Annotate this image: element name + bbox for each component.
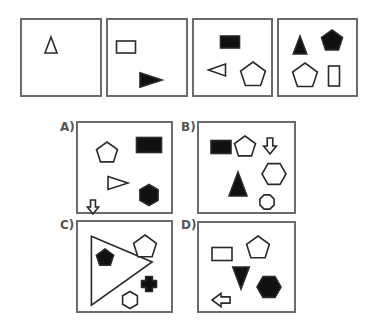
sequence-panel-3: [192, 18, 273, 97]
sequence-panel-4-shapes: [279, 20, 356, 95]
option-label: D): [181, 218, 196, 232]
triangle-right-outline-icon: [108, 177, 128, 190]
option-label: C): [60, 218, 74, 232]
rectangle-black-icon: [211, 141, 231, 154]
arrow-left-outline-icon: [212, 293, 230, 307]
puzzle-stage: A)B)C)D): [0, 0, 378, 333]
sequence-panel-3-shapes: [194, 20, 271, 95]
arrow-down-outline-icon: [264, 138, 277, 154]
option-d-panel-shapes: [199, 223, 294, 311]
triangle-left-outline-icon: [209, 64, 226, 76]
rectangle-outline-icon: [212, 248, 232, 261]
option-label: A): [60, 120, 75, 134]
pentagon-outline-icon: [97, 142, 118, 162]
pentagon-outline-icon: [241, 62, 266, 86]
option-c-panel-shapes: [78, 222, 171, 311]
option-label: B): [181, 120, 196, 134]
sequence-panel-1: [20, 18, 102, 97]
hexagon-outline-icon: [123, 292, 138, 309]
option-a-panel-shapes: [78, 123, 171, 212]
sequence-panel-1-shapes: [22, 20, 100, 95]
triangle-up-black-icon: [293, 36, 307, 54]
hexagon-wide-outline-icon: [262, 164, 286, 185]
option-d-panel[interactable]: [197, 221, 296, 313]
sequence-panel-4: [277, 18, 358, 97]
arrow-down-outline-icon: [87, 200, 98, 214]
sequence-panel-2: [106, 18, 188, 97]
triangle-up-outline-icon: [45, 37, 57, 53]
option-b-panel-shapes: [199, 123, 294, 212]
option-b-panel[interactable]: [197, 121, 296, 214]
hexagon-black-icon: [140, 185, 158, 206]
rectangle-outline-icon: [117, 41, 136, 53]
pentagon-outline-icon: [235, 136, 256, 156]
rectangle-black-icon: [137, 138, 162, 153]
rectangle-black-icon: [221, 36, 240, 48]
triangle-down-black-icon: [233, 267, 250, 289]
octagon-blob-outline-icon: [260, 195, 274, 209]
pentagon-outline-icon: [247, 236, 270, 258]
rectangle-outline-icon: [329, 66, 340, 86]
cross-blob-black-icon: [142, 277, 157, 292]
option-c-panel[interactable]: [76, 220, 173, 313]
triangle-right-black-icon: [140, 73, 162, 87]
pentagon-outline-icon: [134, 235, 157, 257]
option-a-panel[interactable]: [76, 121, 173, 214]
hexagon-wide-black-icon: [257, 277, 281, 298]
sequence-panel-2-shapes: [108, 20, 186, 95]
triangle-up-black-icon: [229, 172, 247, 196]
pentagon-outline-icon: [293, 63, 318, 87]
pentagon-black-icon: [322, 30, 343, 50]
